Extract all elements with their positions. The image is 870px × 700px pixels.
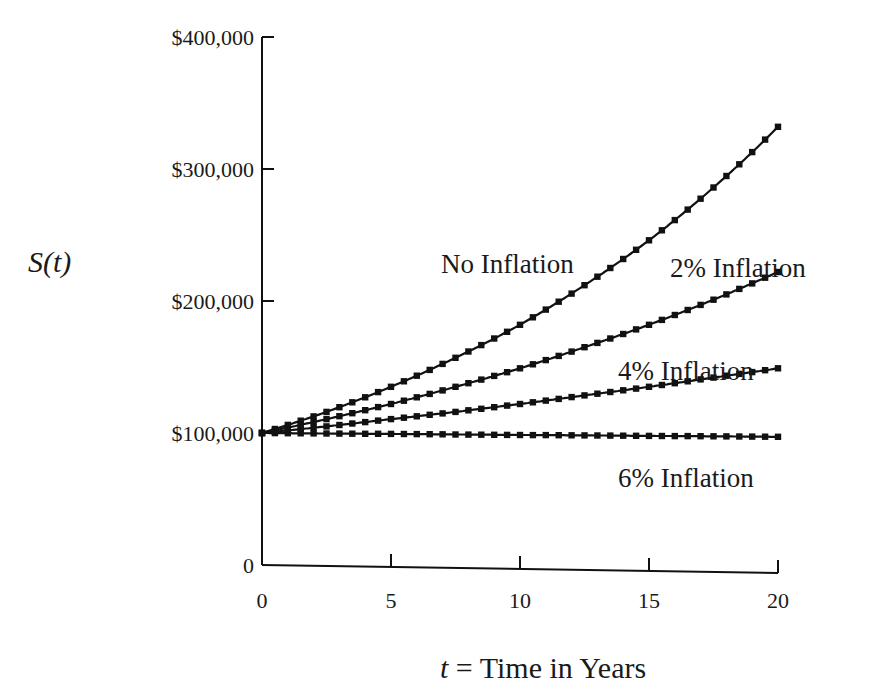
data-point-marker — [594, 274, 600, 280]
x-axis-title: t = Time in Years — [440, 651, 646, 684]
data-point-marker — [568, 348, 574, 354]
data-point-marker — [607, 389, 613, 395]
data-point-marker — [672, 433, 678, 439]
data-point-marker — [620, 256, 626, 262]
data-point-marker — [710, 433, 716, 439]
data-point-marker — [504, 402, 510, 408]
data-point-marker — [697, 196, 703, 202]
x-axis-ticks: 05101520 — [257, 554, 790, 613]
data-point-marker — [762, 136, 768, 142]
data-point-marker — [478, 432, 484, 438]
data-point-marker — [581, 432, 587, 438]
data-point-marker — [646, 237, 652, 243]
x-tick-label: 20 — [767, 588, 789, 613]
data-point-marker — [633, 326, 639, 332]
data-point-marker — [272, 430, 278, 436]
data-point-marker — [620, 387, 626, 393]
data-point-marker — [362, 431, 368, 437]
data-point-marker — [775, 434, 781, 440]
data-point-marker — [349, 410, 355, 416]
data-point-marker — [478, 342, 484, 348]
y-tick-label: $300,000 — [172, 157, 255, 182]
data-point-marker — [427, 391, 433, 397]
x-tick-label: 0 — [257, 588, 268, 613]
data-point-marker — [465, 407, 471, 413]
data-point-marker — [530, 399, 536, 405]
data-point-marker — [723, 173, 729, 179]
label-6-inflation: 6% Inflation — [618, 463, 754, 493]
data-point-marker — [736, 286, 742, 292]
data-point-marker — [323, 423, 329, 429]
data-point-marker — [581, 344, 587, 350]
data-point-marker — [736, 161, 742, 167]
data-point-marker — [543, 432, 549, 438]
data-point-marker — [594, 391, 600, 397]
data-point-marker — [594, 340, 600, 346]
data-point-marker — [517, 401, 523, 407]
data-point-marker — [375, 417, 381, 423]
y-tick-label: 0 — [243, 553, 254, 578]
data-point-marker — [414, 413, 420, 419]
data-point-marker — [336, 422, 342, 428]
data-point-marker — [388, 431, 394, 437]
data-point-marker — [362, 419, 368, 425]
data-point-marker — [388, 416, 394, 422]
data-point-marker — [607, 265, 613, 271]
data-point-marker — [362, 407, 368, 413]
data-point-marker — [452, 409, 458, 415]
data-point-marker — [465, 431, 471, 437]
data-point-marker — [749, 433, 755, 439]
x-tick-label: 5 — [386, 588, 397, 613]
series-2-inflation — [259, 269, 781, 436]
data-point-marker — [633, 433, 639, 439]
data-point-marker — [323, 416, 329, 422]
data-point-marker — [556, 299, 562, 305]
data-point-marker — [414, 394, 420, 400]
data-point-marker — [310, 425, 316, 431]
data-point-marker — [439, 431, 445, 437]
data-point-marker — [298, 430, 304, 436]
data-point-marker — [452, 384, 458, 390]
data-point-marker — [543, 306, 549, 312]
data-point-marker — [310, 419, 316, 425]
data-point-marker — [504, 329, 510, 335]
data-point-marker — [685, 206, 691, 212]
y-tick-label: $200,000 — [172, 289, 255, 314]
data-point-marker — [491, 432, 497, 438]
data-point-marker — [259, 430, 265, 436]
data-point-marker — [723, 433, 729, 439]
data-point-marker — [452, 431, 458, 437]
data-point-marker — [491, 335, 497, 341]
data-point-marker — [310, 430, 316, 436]
x-tick-label: 10 — [509, 588, 531, 613]
data-point-marker — [517, 432, 523, 438]
data-point-marker — [568, 432, 574, 438]
data-point-marker — [659, 433, 665, 439]
data-point-marker — [697, 302, 703, 308]
data-point-marker — [762, 367, 768, 373]
data-point-marker — [775, 365, 781, 371]
data-point-marker — [401, 378, 407, 384]
data-point-marker — [556, 432, 562, 438]
data-point-marker — [491, 373, 497, 379]
data-point-marker — [310, 413, 316, 419]
data-point-marker — [401, 398, 407, 404]
series-6-inflation — [259, 430, 781, 440]
x-tick-label: 15 — [638, 588, 660, 613]
data-point-marker — [414, 431, 420, 437]
y-tick-label: $100,000 — [172, 421, 255, 446]
data-point-marker — [581, 392, 587, 398]
data-point-marker — [736, 433, 742, 439]
data-point-marker — [710, 297, 716, 303]
data-point-marker — [465, 380, 471, 386]
data-point-marker — [427, 412, 433, 418]
data-point-marker — [672, 312, 678, 318]
x-axis-title-rest: = Time in Years — [448, 651, 646, 684]
data-point-marker — [375, 404, 381, 410]
data-point-marker — [362, 394, 368, 400]
data-point-marker — [427, 431, 433, 437]
data-point-marker — [452, 355, 458, 361]
data-point-marker — [646, 433, 652, 439]
data-point-marker — [439, 387, 445, 393]
data-point-marker — [775, 124, 781, 130]
